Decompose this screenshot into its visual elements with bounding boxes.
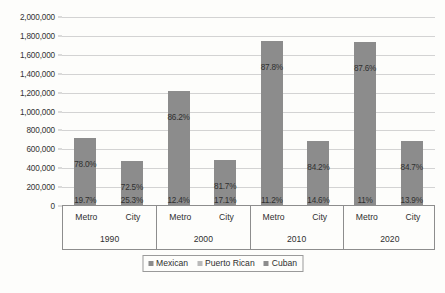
y-axis-tick-label: 600,000 xyxy=(26,145,55,154)
legend-swatch-icon xyxy=(264,261,269,266)
legend-label: Cuban xyxy=(272,258,297,268)
bar-value-label: 87.6% xyxy=(354,64,376,73)
x-axis-sub-row: MetroCity xyxy=(251,206,343,228)
bar-value-label: 72.5% xyxy=(121,183,143,192)
y-axis-tick-label: 800,000 xyxy=(26,126,55,135)
legend-swatch-icon xyxy=(197,261,202,266)
bar-value-label: 19.7% xyxy=(74,196,96,205)
legend-label: Puerto Rican xyxy=(205,258,255,268)
chart-legend: MexicanPuerto RicanCuban xyxy=(142,255,303,272)
x-axis-sub-row: MetroCity xyxy=(344,206,436,228)
legend-swatch-icon xyxy=(148,261,153,266)
x-axis: MetroCity1990MetroCity2000MetroCity2010M… xyxy=(62,206,435,250)
x-axis-sub-label: Metro xyxy=(251,206,297,228)
y-axis-tick-label: 1,800,000 xyxy=(20,31,55,40)
y-axis-tick-label: 200,000 xyxy=(26,183,55,192)
x-axis-sub-label: City xyxy=(203,206,249,228)
y-axis-tick-label: 1,000,000 xyxy=(20,107,55,116)
bar[interactable] xyxy=(168,91,190,206)
bar-value-label: 11.2% xyxy=(261,196,283,205)
bar-value-label: 78.0% xyxy=(74,160,96,169)
y-axis: 0200,000400,000600,000800,0001,000,0001,… xyxy=(0,0,62,212)
y-axis-tick-label: 0 xyxy=(51,202,55,211)
bar-value-label: 86.2% xyxy=(167,113,189,122)
y-axis-tick-label: 1,200,000 xyxy=(20,88,55,97)
x-axis-sub-row: MetroCity xyxy=(157,206,249,228)
x-axis-sub-label: Metro xyxy=(157,206,203,228)
bar-value-label: 84.2% xyxy=(307,163,329,172)
x-axis-group: MetroCity1990 xyxy=(63,206,156,249)
bar-value-label: 87.8% xyxy=(261,63,283,72)
x-axis-group-label: 2000 xyxy=(157,228,249,249)
y-axis-tick-label: 1,600,000 xyxy=(20,50,55,59)
bar-value-label: 81.7% xyxy=(214,182,236,191)
x-axis-group-label: 1990 xyxy=(63,228,156,249)
x-axis-sub-label: City xyxy=(110,206,157,228)
x-axis-sub-label: City xyxy=(297,206,343,228)
x-axis-sub-row: MetroCity xyxy=(63,206,156,228)
legend-item[interactable]: Mexican xyxy=(148,258,188,268)
plot-area: 78.0%19.7%72.5%25.3%86.2%12.4%81.7%17.1%… xyxy=(62,17,435,206)
bar-value-label: 17.1% xyxy=(214,196,236,205)
legend-item[interactable]: Cuban xyxy=(264,258,297,268)
x-axis-sub-label: Metro xyxy=(63,206,110,228)
y-axis-tick-label: 400,000 xyxy=(26,164,55,173)
bar-value-label: 84.7% xyxy=(401,163,423,172)
bar-value-label: 11% xyxy=(357,196,372,205)
bar-chart: 0200,000400,000600,000800,0001,000,0001,… xyxy=(0,0,445,293)
x-axis-group: MetroCity2020 xyxy=(343,206,436,249)
x-axis-group-label: 2010 xyxy=(251,228,343,249)
legend-item[interactable]: Puerto Rican xyxy=(197,258,255,268)
x-axis-group: MetroCity2010 xyxy=(250,206,343,249)
bar-value-label: 25.3% xyxy=(121,196,143,205)
y-axis-tick-label: 1,400,000 xyxy=(20,69,55,78)
x-axis-sub-label: Metro xyxy=(344,206,390,228)
legend-label: Mexican xyxy=(156,258,188,268)
y-axis-tick-label: 2,000,000 xyxy=(20,13,55,22)
x-axis-sub-label: City xyxy=(390,206,436,228)
bar-value-label: 12.4% xyxy=(167,196,189,205)
x-axis-group: MetroCity2000 xyxy=(156,206,249,249)
bar-value-label: 13.9% xyxy=(401,196,423,205)
bar-value-label: 14.6% xyxy=(307,196,329,205)
x-axis-group-label: 2020 xyxy=(344,228,436,249)
bars-layer: 78.0%19.7%72.5%25.3%86.2%12.4%81.7%17.1%… xyxy=(62,17,435,206)
